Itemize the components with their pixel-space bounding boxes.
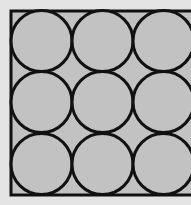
circle-grid: [11, 11, 191, 195]
circle-r1-c2: [133, 72, 191, 133]
diagram-canvas: [0, 0, 191, 205]
circles-in-square-diagram: [0, 0, 191, 205]
circle-r1-c1: [72, 72, 133, 133]
circle-r1-c0: [11, 72, 72, 133]
circle-r2-c2: [133, 134, 191, 195]
circle-r0-c1: [72, 11, 133, 72]
circle-r0-c2: [133, 11, 191, 72]
circle-r2-c0: [11, 134, 72, 195]
circle-r0-c0: [11, 11, 72, 72]
circle-r2-c1: [72, 134, 133, 195]
